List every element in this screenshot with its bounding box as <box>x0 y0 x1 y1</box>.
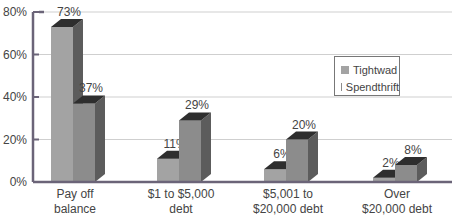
y-tick-label: 60% <box>3 48 27 62</box>
y-tick-label: 80% <box>3 5 27 19</box>
data-label: 37% <box>79 81 103 95</box>
legend-item-tightwad: Tightwad <box>341 61 399 78</box>
category-label: $20,000 debt <box>362 202 433 216</box>
bar-spendthrift: 20% <box>286 118 318 183</box>
data-label: 73% <box>57 5 81 19</box>
y-tick-label: 20% <box>3 133 27 147</box>
category-label: $5,001 to <box>263 187 313 201</box>
legend-item-spendthrift: Spendthrift <box>341 78 399 95</box>
category-label: Over <box>384 187 410 201</box>
data-label: 20% <box>292 118 316 132</box>
category-label: $20,000 debt <box>253 202 324 216</box>
legend: Tightwad Spendthrift <box>334 56 400 96</box>
y-tick-label: 40% <box>3 90 27 104</box>
y-axis: 0%20%40%60%80% <box>3 5 44 189</box>
category-label: debt <box>169 202 193 216</box>
legend-swatch-spendthrift <box>341 83 342 91</box>
category-label: balance <box>54 202 96 216</box>
x-axis-labels: Pay offbalance$1 to $5,000debt$5,001 to$… <box>54 187 433 216</box>
y-tick-label: 0% <box>10 175 28 189</box>
data-label: 8% <box>404 143 422 157</box>
data-label: 29% <box>185 98 209 112</box>
legend-label: Spendthrift <box>346 81 399 93</box>
legend-swatch-tightwad <box>341 66 349 74</box>
bar-spendthrift: 8% <box>395 143 427 182</box>
legend-label: Tightwad <box>353 64 397 76</box>
bar-chart: 0%20%40%60%80% 73%37%11%29%6%20%2%8% Pay… <box>0 0 458 218</box>
category-label: $1 to $5,000 <box>148 187 215 201</box>
category-label: Pay off <box>56 187 94 201</box>
bar-spendthrift: 29% <box>179 98 211 182</box>
